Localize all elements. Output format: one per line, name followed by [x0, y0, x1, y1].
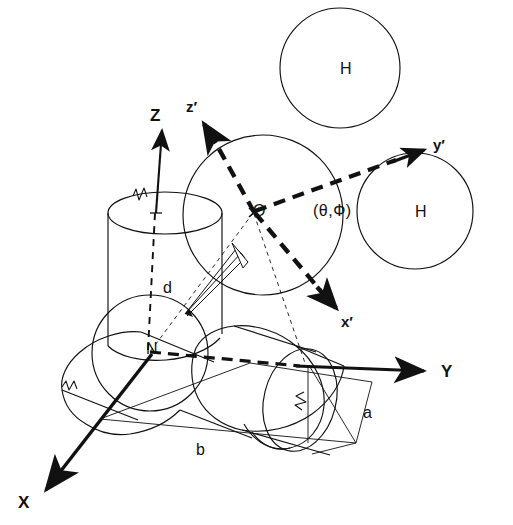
axis-label-y-prime: y′ — [433, 136, 445, 153]
right-cylinder-break-mark — [295, 392, 306, 410]
axis-label-z-prime: z′ — [186, 98, 197, 115]
point-label-origin: O — [253, 202, 265, 220]
dimension-label-d: d — [163, 279, 172, 297]
axis-Y[interactable] — [150, 352, 424, 371]
axis-label-X: X — [18, 493, 29, 513]
axis-x-prime-arrow — [317, 287, 336, 308]
right-cylinder — [192, 326, 348, 459]
axis-label-Y: Y — [441, 362, 452, 382]
axis-label-x-prime: x′ — [341, 313, 353, 330]
axis-label-Z: Z — [150, 106, 160, 126]
base-projection-lines — [100, 363, 372, 454]
diagram-svg — [0, 0, 513, 525]
axis-z-prime-arrow — [204, 124, 216, 143]
atom-label-h-top: H — [340, 60, 352, 78]
axis-x-prime[interactable] — [255, 213, 336, 308]
angle-label-theta-phi: (θ,Ф) — [313, 202, 352, 220]
axis-Z-arrow — [156, 130, 162, 213]
axis-x-prime-shaft — [255, 213, 320, 290]
axis-Z[interactable] — [148, 130, 162, 350]
figure-canvas: Z Y X z′ y′ x′ O N (θ,Ф) H H d a b — [0, 0, 513, 525]
dimension-d-pointer — [185, 243, 248, 317]
axis-z-prime-shaft — [214, 140, 254, 212]
construction-dashed-lines — [150, 213, 305, 363]
dimension-label-b: b — [196, 441, 205, 459]
left-cylinder-break-mark — [62, 381, 77, 390]
dimension-label-a: a — [363, 404, 372, 422]
point-label-node: N — [146, 340, 158, 358]
atom-label-h-right: H — [415, 203, 427, 221]
